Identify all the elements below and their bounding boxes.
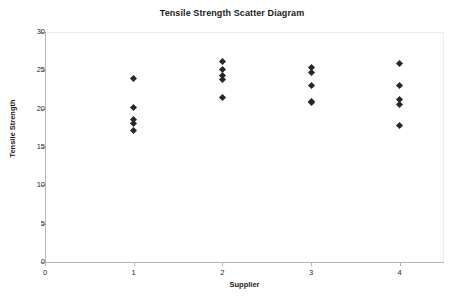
y-tick-label: 15 bbox=[15, 143, 45, 151]
x-tick-label: 1 bbox=[122, 268, 146, 277]
x-tick-mark bbox=[134, 262, 135, 266]
x-tick-label: 0 bbox=[33, 268, 57, 277]
y-axis-line bbox=[45, 32, 46, 263]
y-axis-title: Tensile Strength bbox=[8, 84, 17, 174]
y-tick-label: 20 bbox=[15, 105, 45, 113]
scatter-chart: Tensile Strength Scatter Diagram 0510152… bbox=[0, 0, 464, 297]
y-tick-label-wrap: 5 bbox=[0, 220, 45, 228]
x-tick-label: 3 bbox=[299, 268, 323, 277]
y-tick-label-wrap: 30 bbox=[0, 28, 45, 36]
y-tick-label-wrap: 0 bbox=[0, 258, 45, 266]
x-tick-mark bbox=[45, 262, 46, 266]
y-tick-label: 10 bbox=[15, 181, 45, 189]
x-axis-line bbox=[45, 262, 444, 263]
x-tick-mark bbox=[311, 262, 312, 266]
y-tick-label: 30 bbox=[15, 28, 45, 36]
chart-title: Tensile Strength Scatter Diagram bbox=[0, 8, 464, 18]
y-tick-label: 25 bbox=[15, 66, 45, 74]
x-tick-mark bbox=[222, 262, 223, 266]
x-tick-label: 4 bbox=[388, 268, 412, 277]
y-tick-label: 0 bbox=[15, 258, 45, 266]
x-tick-label: 2 bbox=[210, 268, 234, 277]
y-tick-label: 5 bbox=[15, 220, 45, 228]
plot-area bbox=[45, 32, 444, 263]
y-tick-label-wrap: 25 bbox=[0, 66, 45, 74]
x-axis-title: Supplier bbox=[45, 280, 444, 289]
x-tick-mark bbox=[400, 262, 401, 266]
y-tick-label-wrap: 10 bbox=[0, 181, 45, 189]
